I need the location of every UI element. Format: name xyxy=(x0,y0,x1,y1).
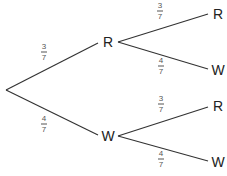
prob-numerator: 3 xyxy=(158,2,162,10)
node-level2-ww: W xyxy=(211,155,224,169)
prob-label-root-w: 4 7 xyxy=(41,115,47,134)
node-level2-rw: W xyxy=(211,63,224,77)
prob-label-root-r: 3 7 xyxy=(41,43,47,62)
prob-denominator: 7 xyxy=(158,13,162,21)
prob-numerator: 4 xyxy=(159,150,163,158)
tree-branches xyxy=(0,0,227,176)
branch-root-to-w xyxy=(6,90,98,135)
prob-denominator: 7 xyxy=(42,54,46,62)
prob-numerator: 4 xyxy=(159,57,163,65)
prob-denominator: 7 xyxy=(159,161,163,169)
node-level2-wr: R xyxy=(213,99,223,113)
prob-label-r-r: 3 7 xyxy=(157,2,163,21)
prob-numerator: 3 xyxy=(42,43,46,51)
node-level1-r: R xyxy=(103,35,113,49)
prob-label-w-r: 3 7 xyxy=(158,95,164,114)
branch-r-to-r xyxy=(118,14,208,42)
node-level2-rr: R xyxy=(213,7,223,21)
prob-denominator: 7 xyxy=(159,68,163,76)
branch-root-to-r xyxy=(6,43,98,90)
prob-label-w-w: 4 7 xyxy=(158,150,164,169)
prob-numerator: 3 xyxy=(159,95,163,103)
node-level1-w: W xyxy=(101,129,114,143)
prob-numerator: 4 xyxy=(42,115,46,123)
prob-denominator: 7 xyxy=(42,126,46,134)
prob-denominator: 7 xyxy=(159,106,163,114)
prob-label-r-w: 4 7 xyxy=(158,57,164,76)
